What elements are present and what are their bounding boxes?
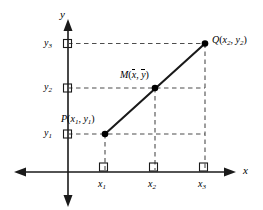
point-m-close-paren: ) [146,69,149,80]
point-label-m: M(x, y) [120,70,149,80]
y-tick-y3-sub: 3 [48,42,52,50]
coordinate-geometry-figure: y x y3 y2 y1 x1 x2 x3 P(x1, y1) M(x, y) … [0,0,263,210]
point-label-q: Q(x2, y2) [212,35,247,47]
x-axis-right-angle-markers [100,163,208,171]
x-axis-arrow-right [224,168,236,177]
right-angle-marker-x1 [100,163,108,171]
y-axis-arrow-up [64,19,73,31]
point-m-x-base: x [132,70,136,80]
x-tick-label-x1: x1 [98,179,106,191]
x-tick-label-x2: x2 [148,179,156,191]
x-axis-arrow-left [14,168,26,177]
point-p-close-paren: ) [91,113,94,124]
x-tick-x1-sub: 1 [102,183,106,191]
point-q-close-paren: ) [243,34,246,45]
y-axis-arrow-down [64,195,73,207]
point-m-y-base: y [141,70,145,80]
point-p-dot [102,131,109,138]
point-label-p: P(x1, y1) [61,114,95,126]
figure-canvas [0,0,263,210]
x-tick-x3-sub: 3 [202,183,206,191]
point-q-dot [202,40,209,47]
y-tick-label-y1: y1 [44,128,52,140]
x-tick-label-x3: x3 [198,179,206,191]
y-tick-y2-sub: 2 [48,86,52,94]
y-tick-y1-sub: 1 [48,132,52,140]
y-axis-label: y [60,9,65,20]
x-tick-x2-sub: 2 [152,183,156,191]
right-angle-marker-x3 [200,163,208,171]
y-tick-label-y3: y3 [44,38,52,50]
x-axis-label: x [243,165,248,176]
y-tick-label-y2: y2 [44,82,52,94]
point-m-dot [152,85,159,92]
right-angle-marker-x2 [150,163,158,171]
